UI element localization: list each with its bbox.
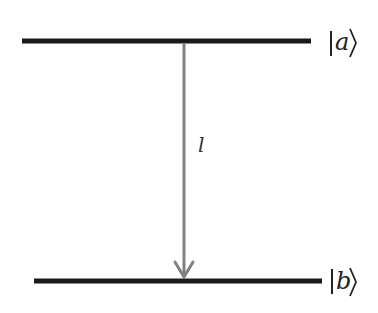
svg-text:b: b [336,267,351,295]
transition-label: l [198,133,204,157]
svg-text:a: a [335,28,349,56]
energy-level-diagram: l a b [0,0,378,313]
transition-arrow [175,43,193,277]
level-b-label: b [332,267,356,296]
level-a-label: a [331,28,356,57]
